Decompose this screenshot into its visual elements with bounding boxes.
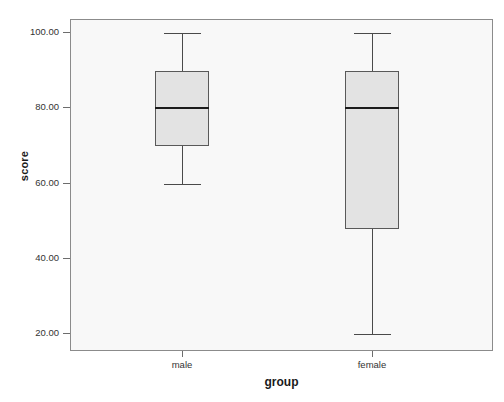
y-axis-tick-mark xyxy=(63,32,70,33)
x-axis-title: group xyxy=(70,375,493,389)
y-axis-tick-mark xyxy=(63,107,70,108)
y-axis-tick-mark xyxy=(63,333,70,334)
x-axis-tick-mark xyxy=(372,351,373,357)
y-axis-tick-label: 60.00 xyxy=(0,177,59,188)
y-axis-tick-label: 100.00 xyxy=(0,26,59,37)
y-axis-tick-label: 80.00 xyxy=(0,101,59,112)
x-axis-tick-mark xyxy=(182,351,183,357)
lower-whisker-line xyxy=(372,229,373,334)
median-line xyxy=(345,107,399,109)
upper-whisker-cap xyxy=(354,33,391,34)
y-axis-tick-label: 20.00 xyxy=(0,327,59,338)
upper-whisker-cap xyxy=(164,33,201,34)
upper-whisker-line xyxy=(182,33,183,71)
lower-whisker-line xyxy=(182,146,183,184)
boxplot-chart-figure: score 20.0040.0060.0080.00100.00 malefem… xyxy=(0,0,504,402)
plot-area xyxy=(70,19,493,351)
interquartile-box xyxy=(345,71,399,229)
lower-whisker-cap xyxy=(354,334,391,335)
x-axis-tick-label: male xyxy=(142,359,222,370)
median-line xyxy=(155,107,209,109)
y-axis-tick-mark xyxy=(63,183,70,184)
y-axis-tick-label: 40.00 xyxy=(0,252,59,263)
y-axis-tick-mark xyxy=(63,258,70,259)
upper-whisker-line xyxy=(372,33,373,71)
lower-whisker-cap xyxy=(164,184,201,185)
x-axis-tick-label: female xyxy=(332,359,412,370)
